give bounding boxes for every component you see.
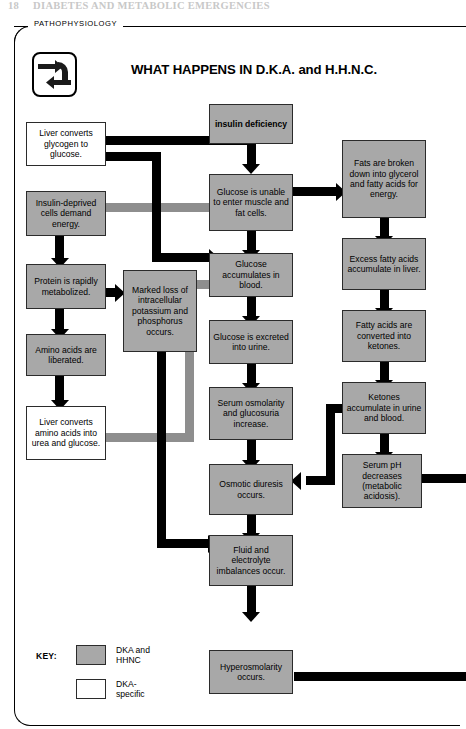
edge-liver-to-accumulates-horz [152,253,210,262]
edge-diuresis-to-fluid [247,515,256,535]
edge-fats-to-excess [380,218,389,238]
node-amino-acids-liberated[interactable]: Amino acids are liberated. [26,334,106,376]
node-fats-broken-down[interactable]: Fats are broken down into glycerol and f… [342,140,426,218]
node-fatty-acids-converted[interactable]: Fatty acids are converted into ketones. [342,310,426,362]
page-title: WHAT HAPPENS IN D.K.A. and H.H.N.C. [84,62,424,77]
edge-glucose-unable-to-fats [289,187,337,196]
node-marked-loss[interactable]: Marked loss of intracellular potassium a… [123,270,197,352]
node-insulin-deprived-cells[interactable]: Insulin-deprived cells demand energy. [26,191,106,236]
node-hyperosmolarity[interactable]: Hyperosmolarity occurs. [209,650,293,694]
node-glucose-excreted[interactable]: Glucose is excreted into urine. [209,320,293,364]
key-text-shared: DKA and HHNC [116,645,150,665]
edge-ketones-to-serum-ph [380,434,389,454]
node-serum-osmolarity[interactable]: Serum osmolarity and glucosuria increase… [209,387,293,440]
edge-glucose-unable-to-accumulates [247,231,256,252]
section-label: PATHOPHYSIOLOGY [28,19,123,28]
node-insulin-deficiency[interactable]: insulin deficiency [209,104,293,144]
edge-ketones-to-diuresis-horz [306,476,335,485]
edge-liver-to-accumulates-stub [100,152,161,161]
cycle-arrows-icon [32,52,77,97]
node-glucose-unable-to-enter[interactable]: Glucose is unable to enter muscle and fa… [209,174,293,231]
arrowhead-fluid-to-hyperosmolarity [242,612,260,622]
running-head: 18DIABETES AND METABOLIC EMERGENCIES [8,0,458,13]
key-label: KEY: [36,651,57,661]
node-excess-fatty-acids[interactable]: Excess fatty acids accumulate in liver. [342,238,426,290]
node-ketones-accumulate[interactable]: Ketones accumulate in urine and blood. [342,382,426,434]
edge-marked-loss-horz [157,539,209,548]
node-liver-converts-glycogen[interactable]: Liver converts glycogen to glucose. [26,122,106,166]
key-text-dka: DKA- specific [116,679,145,699]
edge-liver-amino-to-accumulates-horz [101,433,194,442]
key-swatch-dka [76,679,106,699]
edge-insulin-deprived-to-protein [55,236,64,260]
node-protein-metabolized[interactable]: Protein is rapidly metabolized. [26,264,106,309]
node-liver-converts-amino-acids[interactable]: Liver converts amino acids into urea and… [26,406,106,460]
running-head-title: DIABETES AND METABOLIC EMERGENCIES [33,0,270,11]
edge-accumulates-to-excreted [247,297,256,318]
panel-corner [14,26,38,50]
arrowhead-insulin-to-glucose-unable [242,164,260,174]
edge-osmolarity-to-diuresis [247,440,256,462]
node-glucose-accumulates[interactable]: Glucose accumulates in blood. [209,253,293,297]
edge-protein-to-amino [55,309,64,331]
edge-excreted-to-osmolarity [247,364,256,385]
edge-converted-to-ketones [380,362,389,382]
edge-insulin-to-glucose-unable [247,144,256,166]
edge-liver-to-accumulates-vert [152,152,161,262]
key-swatch-shared [76,645,106,665]
edge-marked-loss-vert [157,352,166,548]
node-fluid-electrolyte-imbalances[interactable]: Fluid and electrolyte imbalances occur. [209,535,293,586]
edge-amino-to-liver-amino [55,376,64,402]
edge-fluid-to-hyperosmolarity [247,586,256,614]
page-number: 18 [8,0,19,11]
edge-excess-to-converted [380,290,389,310]
edge-hyperosmolarity-offpage [294,672,466,681]
node-osmotic-diuresis[interactable]: Osmotic diuresis occurs. [209,464,293,515]
edge-serum-ph-offpage [421,474,466,483]
node-serum-ph-decreases[interactable]: Serum pH decreases (metabolic acidosis). [342,454,422,508]
edge-ketones-to-diuresis-vert [326,404,335,484]
